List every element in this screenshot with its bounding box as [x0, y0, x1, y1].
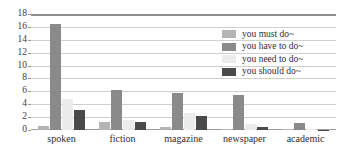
- legend-item-label: you need to do~: [242, 55, 303, 65]
- bar-group: [153, 14, 214, 130]
- bar[interactable]: [221, 129, 232, 130]
- bar[interactable]: [62, 99, 73, 130]
- bar[interactable]: [123, 120, 134, 130]
- bar[interactable]: [50, 24, 61, 130]
- legend-item-label: you must do~: [242, 30, 294, 40]
- y-axis-tick-label: 6: [22, 87, 27, 97]
- bar[interactable]: [172, 93, 183, 130]
- legend-item[interactable]: you need to do~: [222, 53, 340, 66]
- bar-chart-figure: 024681012141618 spokenfictionmagazinenew…: [0, 0, 343, 165]
- x-axis-labels: spokenfictionmagazinenewspaperacademic: [31, 133, 336, 144]
- legend-item[interactable]: you should do~: [222, 66, 340, 79]
- legend-swatch-icon: [222, 68, 236, 76]
- chart-legend: you must do~you have to do~you need to d…: [222, 28, 340, 78]
- legend-item-label: you have to do~: [242, 42, 303, 52]
- x-axis-label: newspaper: [214, 133, 275, 144]
- y-axis-tick-label: 2: [22, 112, 27, 122]
- bar[interactable]: [74, 110, 85, 130]
- bar[interactable]: [196, 116, 207, 130]
- legend-swatch-icon: [222, 30, 236, 38]
- y-axis-tick-label: 4: [22, 99, 27, 109]
- x-axis-label: magazine: [153, 133, 214, 144]
- y-axis-tick-mark: [28, 130, 31, 131]
- bar[interactable]: [99, 122, 110, 130]
- bar[interactable]: [135, 122, 146, 130]
- x-axis-label: academic: [275, 133, 336, 144]
- y-axis-tick-label: 8: [22, 74, 27, 84]
- bar[interactable]: [184, 113, 195, 130]
- legend-swatch-icon: [222, 43, 236, 51]
- bar-group: [31, 14, 92, 130]
- y-axis-tick-label: 18: [18, 9, 28, 19]
- legend-item[interactable]: you must do~: [222, 28, 340, 41]
- x-axis-label: spoken: [31, 133, 92, 144]
- y-axis-tick-label: 12: [18, 48, 28, 58]
- bar[interactable]: [245, 124, 256, 130]
- y-axis-tick-label: 0: [22, 125, 27, 135]
- bar[interactable]: [160, 127, 171, 130]
- legend-swatch-icon: [222, 55, 236, 63]
- x-axis-label: fiction: [92, 133, 153, 144]
- legend-item[interactable]: you have to do~: [222, 41, 340, 54]
- y-axis-tick-label: 10: [18, 61, 28, 71]
- bar[interactable]: [233, 95, 244, 130]
- legend-item-label: you should do~: [242, 67, 301, 77]
- bar[interactable]: [306, 129, 317, 130]
- bar[interactable]: [257, 127, 268, 130]
- bar-group: [92, 14, 153, 130]
- y-axis-tick-label: 14: [18, 35, 28, 45]
- bar[interactable]: [111, 90, 122, 130]
- bar[interactable]: [282, 129, 293, 130]
- bar[interactable]: [294, 123, 305, 130]
- bar[interactable]: [38, 126, 49, 130]
- y-axis-tick-label: 16: [18, 22, 28, 32]
